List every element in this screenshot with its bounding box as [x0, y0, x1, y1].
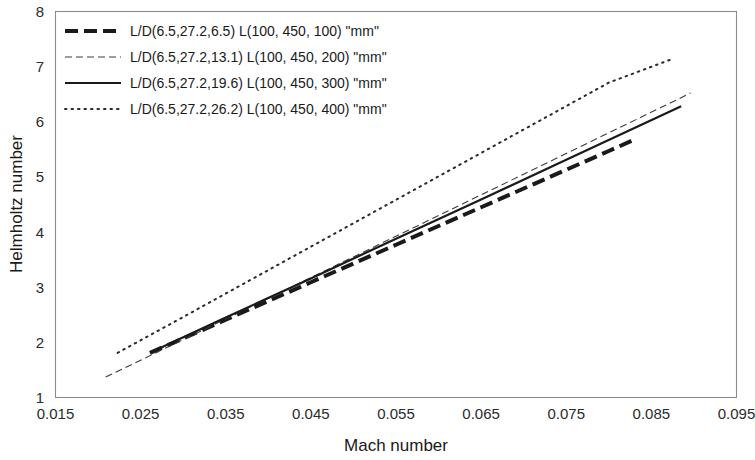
x-tick-label: 0.095 [718, 405, 755, 422]
x-tick-label: 0.025 [122, 405, 160, 422]
x-tick-label: 0.015 [37, 405, 75, 422]
y-tick-label: 2 [36, 334, 44, 351]
x-tick-label: 0.035 [207, 405, 245, 422]
y-tick-label: 7 [36, 58, 44, 75]
x-tick-label: 0.045 [292, 405, 330, 422]
y-tick-label: 6 [36, 113, 44, 130]
legend-label-1: L/D(6.5,27.2,6.5) L(100, 450, 100) "mm" [130, 23, 379, 39]
x-axis-title: Mach number [344, 436, 448, 455]
legend-label-4: L/D(6.5,27.2,26.2) L(100, 450, 400) "mm" [130, 101, 387, 117]
chart-container: 12345678 0.0150.0250.0350.0450.0550.0650… [0, 0, 755, 460]
y-tick-label: 3 [36, 279, 44, 296]
y-axis-title: Helmholtz number [7, 135, 26, 273]
legend-label-2: L/D(6.5,27.2,13.1) L(100, 450, 200) "mm" [130, 49, 387, 65]
x-tick-label: 0.075 [547, 405, 585, 422]
x-axis-tick-labels: 0.0150.0250.0350.0450.0550.0650.0750.085… [37, 405, 755, 422]
legend-label-3: L/D(6.5,27.2,19.6) L(100, 450, 300) "mm" [130, 75, 387, 91]
x-tick-label: 0.065 [462, 405, 500, 422]
y-tick-label: 5 [36, 168, 44, 185]
y-tick-label: 8 [36, 3, 44, 20]
y-tick-label: 1 [36, 389, 44, 406]
y-tick-label: 4 [36, 224, 44, 241]
x-tick-label: 0.085 [633, 405, 671, 422]
helmholtz-vs-mach-chart: 12345678 0.0150.0250.0350.0450.0550.0650… [0, 0, 755, 460]
x-tick-label: 0.055 [377, 405, 415, 422]
chart-background [0, 0, 755, 460]
